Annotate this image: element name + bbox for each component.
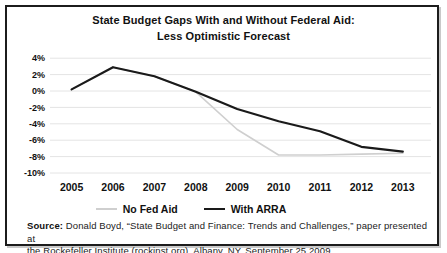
- source-label: Source:: [27, 220, 63, 231]
- legend-label-with-arra: With ARRA: [231, 203, 287, 215]
- y-tick-label: 0%: [32, 86, 45, 96]
- y-tick-label: 4%: [32, 53, 45, 63]
- y-tick-label: -6%: [29, 135, 45, 145]
- legend-label-no-fed-aid: No Fed Aid: [123, 203, 178, 215]
- y-tick-label: -8%: [29, 152, 45, 162]
- source-line2: the Rockefeller Institute (rockinst.org)…: [27, 245, 429, 253]
- chart-svg: 4%2%0%-2%-4%-6%-8%-10%200520062007200820…: [0, 0, 447, 253]
- legend-item-no-fed-aid: No Fed Aid: [96, 203, 178, 215]
- x-tick-label: 2012: [350, 181, 374, 193]
- x-tick-label: 2010: [267, 181, 291, 193]
- x-tick-label: 2009: [226, 181, 250, 193]
- y-tick-label: -4%: [29, 119, 45, 129]
- x-tick-label: 2008: [184, 181, 208, 193]
- source-note: Source: Donald Boyd, “State Budget and F…: [27, 220, 429, 253]
- x-tick-label: 2011: [309, 181, 332, 193]
- series-line-no-fed-aid: [72, 67, 403, 155]
- x-tick-label: 2005: [60, 181, 84, 193]
- legend: No Fed Aid With ARRA: [0, 203, 382, 215]
- y-tick-label: -2%: [29, 103, 45, 113]
- x-tick-label: 2007: [143, 181, 167, 193]
- no-fed-aid-line-swatch: [96, 208, 117, 210]
- source-line1: Donald Boyd, “State Budget and Finance: …: [27, 220, 427, 244]
- y-tick-label: -10%: [24, 168, 45, 178]
- with-arra-line-swatch: [204, 208, 225, 210]
- series-line-with-arra: [72, 67, 403, 152]
- legend-item-with-arra: With ARRA: [204, 203, 287, 215]
- x-tick-label: 2006: [101, 181, 125, 193]
- y-tick-label: 2%: [32, 70, 45, 80]
- x-tick-label: 2013: [391, 181, 415, 193]
